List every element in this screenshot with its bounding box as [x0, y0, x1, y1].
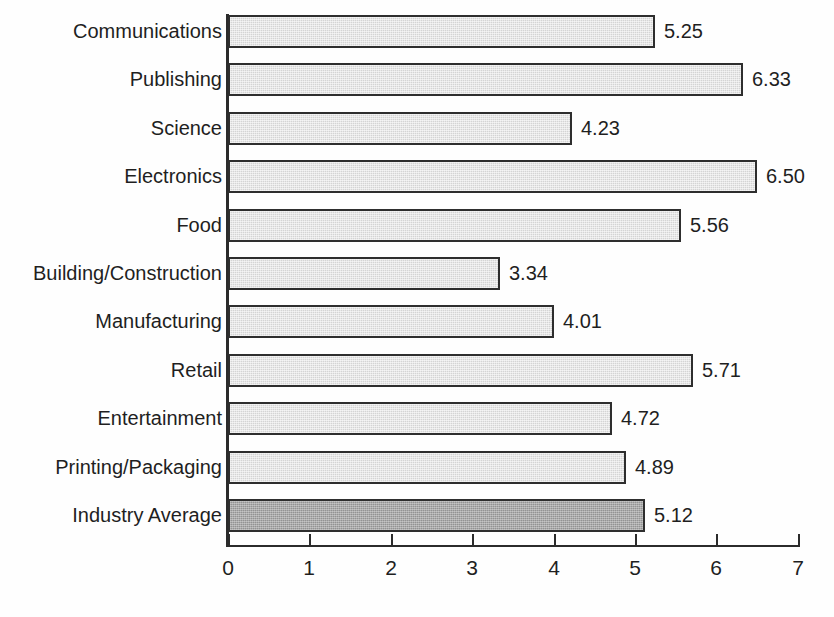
tick-label: 6: [696, 556, 736, 580]
tick-label: 3: [452, 556, 492, 580]
bar[interactable]: [228, 499, 645, 532]
bar[interactable]: [228, 305, 554, 338]
tick-label: 2: [371, 556, 411, 580]
category-label: Electronics: [6, 160, 222, 193]
bar-row: 4.89: [228, 451, 798, 484]
bar[interactable]: [228, 354, 693, 387]
x-axis-ticks: 01234567: [228, 547, 802, 607]
bar-value-label: 5.71: [702, 354, 741, 387]
bar-row: 5.25: [228, 15, 798, 48]
bar-row: 4.72: [228, 402, 798, 435]
tick-label: 0: [208, 556, 248, 580]
bar-value-label: 4.01: [563, 305, 602, 338]
bar-row: 5.56: [228, 209, 798, 242]
tick-mark: [309, 534, 311, 547]
tick-label: 5: [615, 556, 655, 580]
tick-mark: [716, 534, 718, 547]
bar[interactable]: [228, 209, 681, 242]
tick-mark: [228, 534, 230, 547]
category-label: Science: [6, 112, 222, 145]
tick-mark: [798, 534, 800, 547]
bar[interactable]: [228, 451, 626, 484]
bar-row: 4.01: [228, 305, 798, 338]
category-label: Food: [6, 209, 222, 242]
tick-label: 4: [534, 556, 574, 580]
bar-row: 3.34: [228, 257, 798, 290]
bar-row: 5.12: [228, 499, 798, 532]
bar-row: 6.50: [228, 160, 798, 193]
bar[interactable]: [228, 160, 757, 193]
tick-mark: [391, 534, 393, 547]
bar-value-label: 4.89: [635, 451, 674, 484]
bar-chart: CommunicationsPublishingScienceElectroni…: [0, 0, 834, 617]
category-label: Printing/Packaging: [6, 451, 222, 484]
bar[interactable]: [228, 112, 572, 145]
tick-mark: [554, 534, 556, 547]
bar-value-label: 3.34: [509, 257, 548, 290]
category-label: Entertainment: [6, 402, 222, 435]
bar-value-label: 4.72: [621, 402, 660, 435]
category-axis-labels: CommunicationsPublishingScienceElectroni…: [0, 14, 222, 546]
bar[interactable]: [228, 63, 743, 96]
category-label: Publishing: [6, 63, 222, 96]
bar[interactable]: [228, 257, 500, 290]
bar-value-label: 5.12: [654, 499, 693, 532]
tick-label: 7: [778, 556, 818, 580]
bar-row: 5.71: [228, 354, 798, 387]
category-label: Building/Construction: [6, 257, 222, 290]
bar-value-label: 5.56: [690, 209, 729, 242]
category-label: Industry Average: [6, 499, 222, 532]
bar-value-label: 6.50: [766, 160, 805, 193]
category-label: Communications: [6, 15, 222, 48]
bar-value-label: 4.23: [581, 112, 620, 145]
bar-value-label: 5.25: [664, 15, 703, 48]
bar-rows: 5.256.334.236.505.563.344.015.714.724.89…: [228, 14, 798, 546]
bar[interactable]: [228, 402, 612, 435]
bar-value-label: 6.33: [752, 63, 791, 96]
bar[interactable]: [228, 15, 655, 48]
tick-label: 1: [289, 556, 329, 580]
tick-mark: [472, 534, 474, 547]
category-label: Retail: [6, 354, 222, 387]
plot-area: 5.256.334.236.505.563.344.015.714.724.89…: [228, 14, 798, 546]
tick-mark: [635, 534, 637, 547]
bar-row: 6.33: [228, 63, 798, 96]
category-label: Manufacturing: [6, 305, 222, 338]
bar-row: 4.23: [228, 112, 798, 145]
